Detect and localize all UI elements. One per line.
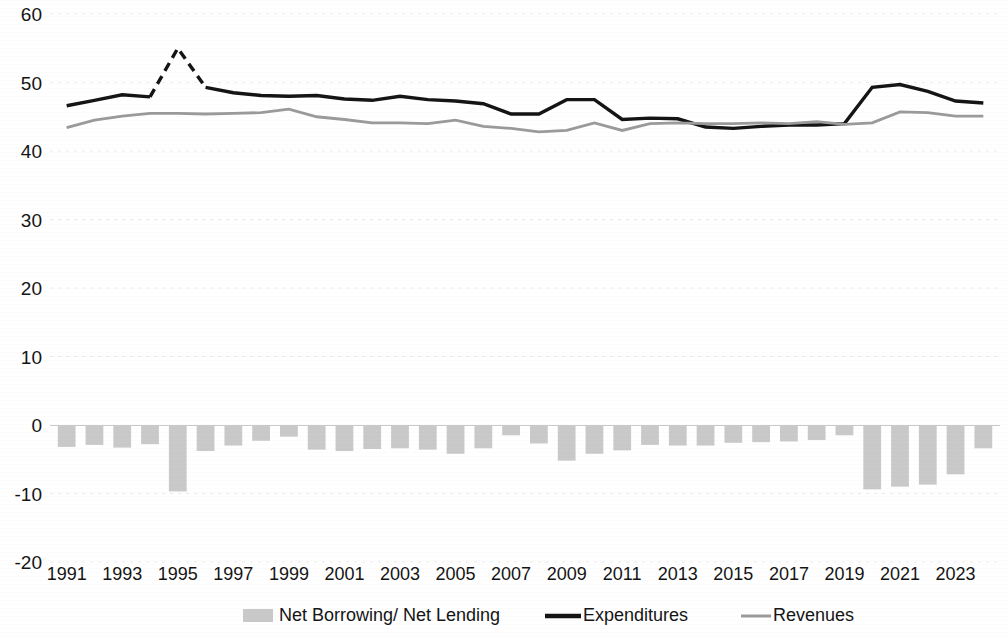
x-tick-label-2007: 2007 — [491, 564, 531, 584]
x-tick-label-2013: 2013 — [658, 564, 698, 584]
chart-legend: Net Borrowing/ Net LendingExpendituresRe… — [243, 605, 854, 625]
x-tick-label-2015: 2015 — [713, 564, 753, 584]
y-tick-label-0: 0 — [31, 415, 42, 436]
y-tick-label-40: 40 — [21, 141, 42, 162]
x-tick-label-1991: 1991 — [47, 564, 87, 584]
y-tick-label-60: 60 — [21, 4, 42, 25]
bar-2014 — [697, 425, 715, 446]
bar-1991 — [58, 425, 76, 447]
bar-2022 — [919, 425, 937, 485]
x-tick-label-2011: 2011 — [603, 564, 642, 584]
bar-1996 — [197, 425, 215, 451]
legend-label-expenditures: Expenditures — [583, 605, 688, 625]
x-tick-label-1993: 1993 — [102, 564, 142, 584]
bar-2023 — [947, 425, 965, 474]
bar-1993 — [113, 425, 131, 448]
x-tick-label-2009: 2009 — [547, 564, 587, 584]
chart-page: 6050403020100-10-20 19911993199519971999… — [0, 0, 1007, 637]
y-axis-tick-labels: 6050403020100-10-20 — [15, 4, 42, 573]
bar-2005 — [447, 425, 465, 454]
line-expenditures-part1 — [67, 95, 150, 106]
x-tick-label-1997: 1997 — [213, 564, 253, 584]
legend-label-revenues: Revenues — [773, 605, 854, 625]
bar-2019 — [836, 425, 854, 435]
x-tick-label-2021: 2021 — [880, 564, 920, 584]
bar-2011 — [613, 425, 631, 450]
y-tick-label-30: 30 — [21, 210, 42, 231]
bar-2024 — [974, 425, 992, 448]
bar-2000 — [308, 425, 326, 450]
bar-2021 — [891, 425, 909, 487]
bar-2006 — [474, 425, 492, 448]
bar-2017 — [780, 425, 798, 441]
bar-2020 — [863, 425, 881, 489]
x-tick-label-2019: 2019 — [824, 564, 864, 584]
bar-2003 — [391, 425, 409, 448]
y-tick-label--20: -20 — [15, 552, 42, 573]
y-tick-label-20: 20 — [21, 278, 42, 299]
bar-2012 — [641, 425, 659, 445]
bar-2009 — [558, 425, 576, 461]
x-tick-label-2023: 2023 — [936, 564, 976, 584]
bar-2004 — [419, 425, 437, 450]
line-series-group — [67, 48, 984, 132]
bar-2008 — [530, 425, 548, 444]
bar-2016 — [752, 425, 770, 442]
bar-2015 — [724, 425, 742, 443]
bar-1997 — [224, 425, 242, 446]
bar-2002 — [363, 425, 381, 449]
bar-2010 — [586, 425, 604, 454]
bar-2018 — [808, 425, 826, 440]
x-tick-label-1995: 1995 — [158, 564, 198, 584]
legend-label-net-borrowing-net-lending: Net Borrowing/ Net Lending — [279, 605, 500, 625]
bar-2001 — [336, 425, 354, 451]
bar-2013 — [669, 425, 687, 446]
x-tick-label-2001: 2001 — [324, 564, 364, 584]
chart-canvas: 6050403020100-10-20 19911993199519971999… — [0, 0, 1007, 637]
bar-2007 — [502, 425, 520, 435]
line-expenditures-dashed-segment — [150, 48, 206, 97]
bar-1994 — [141, 425, 159, 444]
x-axis-tick-labels: 1991199319951997199920012003200520072009… — [47, 564, 976, 584]
y-tick-label--10: -10 — [15, 484, 42, 505]
bar-1992 — [86, 425, 104, 445]
x-tick-label-1999: 1999 — [269, 564, 309, 584]
bar-1998 — [252, 425, 270, 441]
bar-1995 — [169, 425, 187, 491]
y-tick-label-50: 50 — [21, 73, 42, 94]
legend-swatch-net-borrowing-net-lending — [243, 609, 273, 622]
bar-series-net-borrowing — [58, 425, 992, 491]
bar-1999 — [280, 425, 298, 437]
x-tick-label-2003: 2003 — [380, 564, 420, 584]
y-tick-label-10: 10 — [21, 347, 42, 368]
x-tick-label-2005: 2005 — [436, 564, 476, 584]
gridlines-group — [50, 14, 1000, 562]
x-tick-label-2017: 2017 — [769, 564, 809, 584]
